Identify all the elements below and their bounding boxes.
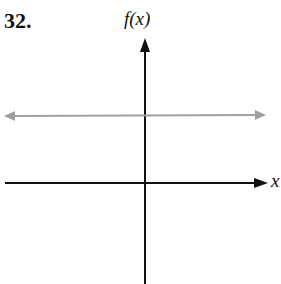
horizontal-line-graph bbox=[4, 110, 266, 121]
graph-canvas bbox=[0, 0, 281, 284]
x-axis-arrow-icon bbox=[254, 178, 268, 188]
left-arrow-icon bbox=[4, 111, 15, 121]
y-axis bbox=[140, 38, 150, 284]
y-axis-arrow-icon bbox=[140, 38, 150, 52]
x-axis bbox=[5, 178, 268, 188]
right-arrow-icon bbox=[255, 110, 266, 120]
